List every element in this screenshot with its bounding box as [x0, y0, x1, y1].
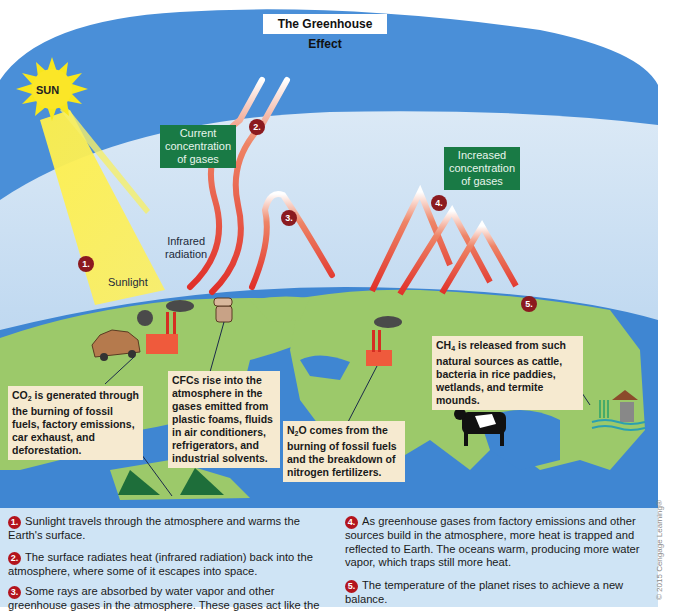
step-badge-5: 5. [521, 296, 537, 312]
ch4-callout: CH4 is released from such natural source… [432, 336, 583, 410]
step-badge-2: 2. [249, 119, 265, 135]
n2o-callout: N2O comes from the burning of fossil fue… [283, 421, 405, 482]
sun-label: SUN [36, 84, 59, 96]
infrared-radiation-label: Infrared radiation [165, 235, 207, 261]
step-badge-3: 3. [281, 210, 297, 226]
legend-item-3: 3.Some rays are absorbed by water vapor … [8, 585, 328, 613]
co2-callout: CO2 is generated through the burning of … [8, 386, 143, 460]
legend-panel: 1.Sunlight travels through the atmospher… [0, 508, 658, 607]
legend-item-1: 1.Sunlight travels through the atmospher… [8, 515, 328, 543]
legend-item-4: 4.As greenhouse gases from factory emiss… [345, 515, 650, 570]
sunlight-label: Sunlight [108, 276, 148, 289]
copyright-notice: © 2015 Cengage Learning® [655, 500, 664, 600]
cfc-callout: CFCs rise into the atmosphere in the gas… [168, 371, 280, 468]
current-concentration-label: Current concentration of gases [160, 125, 236, 168]
cfc-container-icon [214, 298, 232, 322]
step-badge-1: 1. [78, 256, 94, 272]
diagram-title: The Greenhouse Effect [263, 14, 387, 34]
increased-concentration-label: Increased concentration of gases [444, 147, 520, 190]
step-badge-4: 4. [431, 195, 447, 211]
legend-item-5: 5.The temperature of the planet rises to… [345, 579, 650, 607]
legend-item-2: 2.The surface radiates heat (infrared ra… [8, 551, 328, 579]
